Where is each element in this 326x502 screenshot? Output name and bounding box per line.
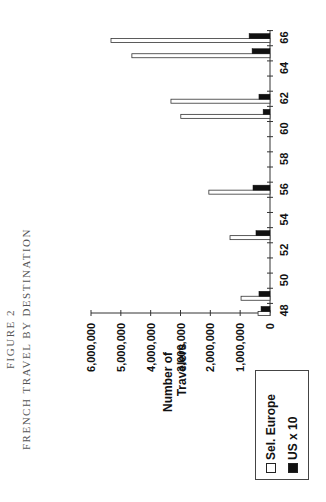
legend-item-sel-europe: Sel. Europe — [264, 394, 278, 473]
legend-item-us-x10: US x 10 — [286, 417, 300, 473]
category-tick-label: 52 — [278, 244, 290, 256]
bar-sel-europe — [111, 39, 270, 43]
rotated-figure: FIGURE 2 FRENCH TRAVEL BY DESTINATION 01… — [0, 0, 326, 502]
legend-label: US x 10 — [286, 417, 300, 460]
bar-us-x10 — [263, 109, 270, 114]
white-swatch-icon — [266, 463, 276, 473]
value-tick-label: 2,000,000 — [204, 323, 216, 372]
bar-sel-europe — [209, 190, 270, 194]
bar-us-x10 — [252, 49, 270, 54]
category-tick-label: 60 — [278, 122, 290, 134]
value-tick-label: 6,000,000 — [85, 323, 97, 372]
bar-us-x10 — [249, 34, 270, 39]
bar-sel-europe — [241, 296, 270, 300]
y-axis-label: Number of — [161, 351, 175, 412]
category-tick-label: 48 — [278, 304, 290, 316]
bar-us-x10 — [256, 231, 270, 236]
bar-sel-europe — [181, 114, 270, 118]
bar-us-x10 — [259, 291, 270, 296]
category-tick-label: 54 — [278, 212, 290, 225]
category-tick-label: 64 — [278, 61, 290, 74]
y-axis-label: Travelers — [175, 343, 189, 396]
bar-us-x10 — [259, 94, 270, 99]
value-tick-label: 4,000,000 — [145, 323, 157, 372]
bar-sel-europe — [132, 54, 270, 58]
category-tick-label: 50 — [278, 274, 290, 286]
bar-sel-europe — [230, 236, 270, 240]
bar-sel-europe — [171, 99, 270, 103]
bar-sel-europe — [258, 311, 270, 315]
value-tick-label: 1,000,000 — [234, 323, 246, 372]
category-tick-label: 62 — [278, 92, 290, 104]
legend: Sel. Europe US x 10 — [255, 370, 309, 480]
bar-us-x10 — [253, 185, 270, 190]
legend-label: Sel. Europe — [264, 394, 278, 460]
black-swatch-icon — [288, 463, 298, 473]
category-tick-label: 56 — [278, 183, 290, 195]
category-tick-label: 66 — [278, 31, 290, 43]
value-tick-label: 0 — [264, 323, 276, 329]
value-tick-label: 5,000,000 — [115, 323, 127, 372]
category-tick-label: 58 — [278, 153, 290, 165]
bar-us-x10 — [261, 306, 270, 311]
